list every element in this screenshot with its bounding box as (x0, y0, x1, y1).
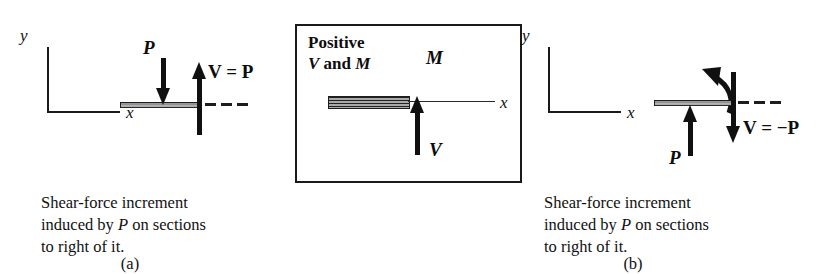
panel-b-caption-line-2: induced by P on sections (544, 214, 709, 236)
shear-value-label: V = P (208, 62, 253, 81)
shear-arrow-shaft (197, 77, 202, 135)
caption-text-post: on sections (631, 215, 709, 234)
title-line-1: Positive (308, 33, 365, 52)
shear-arrow-head (192, 62, 206, 79)
panel-b-caption-line-1: Shear-force increment (544, 192, 691, 214)
panel-a: y x P V = P Shear-force increment induce… (0, 0, 290, 274)
title-and: and (319, 54, 355, 73)
y-axis-line (548, 47, 550, 113)
beam-dash-segment (738, 101, 749, 104)
load-arrow-head (683, 105, 697, 122)
shear-arrow-shaft (731, 72, 736, 128)
caption-text-pre: induced by (544, 215, 621, 234)
title-V: V (308, 54, 319, 73)
shear-label-V: V (429, 140, 442, 159)
shear-arrow-head (726, 126, 740, 143)
caption-italic-P: P (118, 215, 128, 234)
load-label-P: P (143, 38, 155, 57)
moment-label-M: M (426, 48, 443, 67)
beam-dash-segment (754, 101, 765, 104)
load-arrow-head (156, 88, 170, 105)
shear-value-label: V = −P (743, 118, 799, 137)
load-label-P: P (669, 148, 681, 167)
x-axis-line (548, 111, 621, 113)
panel-a-caption-line-1: Shear-force increment (41, 192, 188, 214)
caption-text-pre: induced by (41, 215, 118, 234)
beam-dash-segment (221, 103, 232, 106)
panel-b-tag: (b) (613, 256, 653, 273)
beam-member (328, 96, 410, 109)
y-axis-label: y (522, 27, 530, 44)
panel-a-tag: (a) (110, 256, 150, 273)
panel-a-caption-line-3: to right of it. (41, 236, 124, 258)
beam-dash-segment (770, 101, 781, 104)
x-axis-label: x (500, 94, 508, 111)
x-axis-line (47, 111, 120, 113)
panel-b-caption-line-3: to right of it. (544, 236, 627, 258)
load-arrow-shaft (161, 58, 166, 90)
panel-middle: Positive V and M x V M (290, 0, 530, 274)
shear-arrow-shaft (415, 111, 420, 155)
caption-text-post: on sections (128, 215, 206, 234)
load-arrow-shaft (688, 120, 693, 156)
title-M: M (355, 54, 370, 73)
caption-italic-P: P (621, 215, 631, 234)
panel-a-caption-line-2: induced by P on sections (41, 214, 206, 236)
y-axis-label: y (20, 27, 28, 44)
positive-convention-title: Positive V and M (308, 32, 370, 75)
panel-b: y x P V = −P Shear-force increment induc… (530, 0, 819, 274)
beam-dash-segment (205, 103, 216, 106)
y-axis-line (47, 47, 49, 113)
shear-force-convention-figure: y x P V = P Shear-force increment induce… (0, 0, 819, 274)
shear-arrow-head (410, 96, 424, 113)
x-axis-label: x (627, 104, 635, 121)
beam-dash-segment (237, 103, 248, 106)
